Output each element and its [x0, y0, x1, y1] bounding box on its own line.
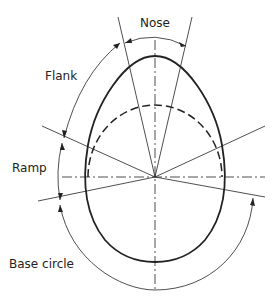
- flank-dimension-arc: [64, 43, 120, 138]
- base-circle-label: Base circle: [9, 257, 74, 271]
- ramp-label: Ramp: [12, 161, 47, 175]
- arrow-head: [250, 198, 255, 206]
- arrow-head: [125, 38, 132, 43]
- ramp-dimension-arc: [58, 143, 62, 200]
- flank-ramp-boundary-right: [155, 126, 265, 177]
- base-circle-dimension-arc: [60, 198, 253, 290]
- ramp-base-boundary-left: [38, 177, 155, 201]
- nose-dimension-arc: [125, 37, 186, 46]
- cam-diagram: Nose Flank Ramp Base circle: [0, 0, 275, 297]
- ramp-base-boundary-right: [155, 177, 265, 197]
- cam-profile: [85, 56, 225, 262]
- flank-label: Flank: [45, 69, 77, 83]
- nose-boundary-left: [118, 17, 155, 177]
- arrow-head: [60, 143, 65, 150]
- nose-label: Nose: [140, 16, 170, 30]
- flank-ramp-boundary-left: [42, 126, 155, 177]
